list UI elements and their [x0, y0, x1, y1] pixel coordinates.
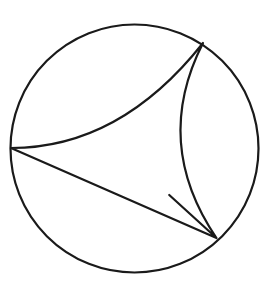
background-rect — [0, 0, 275, 295]
figure-canvas: Curved triangle inscribed in a circle A … — [0, 0, 275, 295]
geometry-diagram: Curved triangle inscribed in a circle A … — [0, 0, 275, 295]
